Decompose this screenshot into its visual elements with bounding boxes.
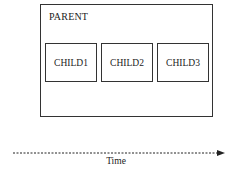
child-box-1: CHILD1 <box>45 43 97 82</box>
child-label: CHILD3 <box>166 58 200 68</box>
child-box-3: CHILD3 <box>157 43 209 82</box>
child-label: CHILD1 <box>54 58 88 68</box>
time-axis-label: Time <box>0 156 232 166</box>
child-box-2: CHILD2 <box>101 43 153 82</box>
parent-box: PARENT CHILD1 CHILD2 CHILD3 <box>40 4 213 117</box>
child-label: CHILD2 <box>110 58 144 68</box>
parent-label: PARENT <box>49 11 88 22</box>
